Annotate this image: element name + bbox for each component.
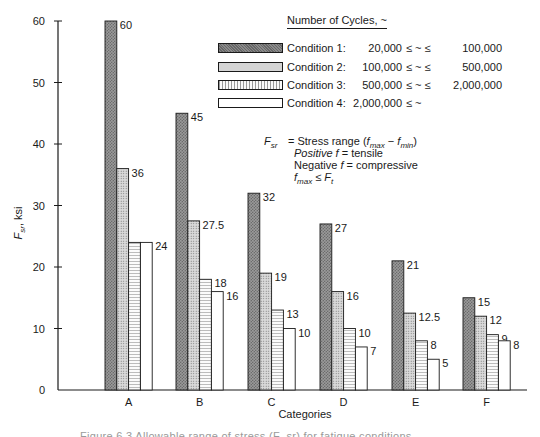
- bar-value-label: 45: [191, 111, 203, 123]
- y-tick-label: 0: [39, 384, 45, 396]
- bar-condition-1: [320, 224, 332, 390]
- bar-value-label: 27: [335, 222, 347, 234]
- bar-value-label: 16: [226, 290, 238, 302]
- bar-condition-4: [283, 329, 295, 391]
- bar-group-c: 32191310: [248, 191, 310, 390]
- bar-group-b: 4527.51816: [176, 111, 238, 390]
- bar-condition-3: [272, 310, 284, 390]
- bar-condition-4: [498, 341, 510, 390]
- bar-condition-4: [427, 359, 439, 390]
- y-tick-label: 10: [33, 323, 45, 335]
- y-axis-title: Fsr, ksi: [12, 207, 27, 240]
- bars: 6036244527.518163219131027161072112.5851…: [105, 19, 519, 390]
- bar-condition-4: [355, 347, 367, 390]
- legend-operator: ≤ ~ ≤: [406, 61, 431, 73]
- bar-value-label: 60: [120, 19, 132, 31]
- bar-group-a: 603624: [105, 19, 167, 390]
- legend-title: Number of Cycles, ~: [287, 14, 387, 29]
- legend-condition-label: Condition 4:: [287, 97, 346, 109]
- bar-value-label: 8: [513, 339, 519, 351]
- legend-low-value: 20,000: [342, 42, 402, 54]
- bar-condition-3: [344, 329, 356, 391]
- note-line-2: Positive f = tensile: [294, 147, 383, 159]
- category-labels: ABCDEF: [125, 396, 490, 408]
- condition-4-swatch: [218, 98, 283, 108]
- legend-high-value: 2,000,000: [438, 79, 502, 91]
- bar-condition-1: [248, 193, 260, 390]
- bar-value-label: 10: [358, 327, 370, 339]
- bar-condition-3: [487, 335, 499, 390]
- x-axis-title: Categories: [278, 408, 332, 420]
- bar-condition-1: [105, 21, 117, 390]
- bar-value-label: 16: [347, 290, 359, 302]
- bar-value-label: 36: [132, 167, 144, 179]
- bar-value-label: 12.5: [419, 311, 440, 323]
- legend-row-condition-1: Condition 1: 20,000 ≤ ~ ≤ 100,000: [218, 43, 540, 55]
- y-tick-label: 50: [33, 77, 45, 89]
- bar-value-label: 21: [407, 259, 419, 271]
- bar-value-label: 12: [490, 314, 502, 326]
- bar-condition-2: [404, 313, 416, 390]
- category-label-a: A: [125, 396, 133, 408]
- bar-value-label: 18: [214, 277, 226, 289]
- bar-condition-2: [260, 273, 272, 390]
- category-label-b: B: [196, 396, 203, 408]
- legend-low-value: 500,000: [342, 79, 402, 91]
- bar-condition-1: [392, 261, 404, 390]
- bar-condition-2: [117, 169, 129, 390]
- category-label-c: C: [268, 396, 276, 408]
- legend-row-condition-2: Condition 2: 100,000 ≤ ~ ≤ 500,000: [218, 62, 540, 74]
- legend-operator: ≤ ~ ≤: [406, 42, 431, 54]
- note-line-4: fmax ≤ Ft: [294, 171, 333, 188]
- bar-condition-3: [416, 341, 428, 390]
- condition-3-swatch: [218, 80, 283, 90]
- bar-value-label: 19: [275, 271, 287, 283]
- bar-value-label: 13: [286, 308, 298, 320]
- bar-value-label: 24: [155, 240, 167, 252]
- condition-1-swatch: [218, 43, 283, 53]
- legend-low-value: 2,000,000: [342, 97, 402, 109]
- legend-row-condition-4: Condition 4: 2,000,000 ≤ ~: [218, 98, 540, 110]
- condition-2-swatch: [218, 62, 283, 72]
- bar-condition-4: [140, 242, 152, 390]
- bar-condition-2: [332, 292, 344, 390]
- bar-value-label: 7: [370, 345, 376, 357]
- bar-condition-4: [211, 292, 223, 390]
- bar-condition-1: [176, 113, 188, 390]
- legend-condition-label: Condition 3:: [287, 79, 346, 91]
- bar-condition-3: [129, 242, 141, 390]
- y-tick-label: 60: [33, 15, 45, 27]
- legend-operator: ≤ ~ ≤: [406, 79, 431, 91]
- bar-condition-1: [463, 298, 475, 390]
- bar-value-label: 8: [430, 339, 436, 351]
- note-line-3: Negative f = compressive: [294, 159, 418, 171]
- legend-condition-label: Condition 1:: [287, 42, 346, 54]
- legend-operator: ≤ ~: [406, 97, 422, 109]
- bar-group-e: 2112.585: [392, 259, 448, 390]
- bar-condition-3: [200, 279, 212, 390]
- legend-condition-label: Condition 2:: [287, 61, 346, 73]
- bar-group-d: 2716107: [320, 222, 376, 390]
- category-label-d: D: [340, 396, 348, 408]
- bar-condition-2: [188, 221, 200, 390]
- bar-value-label: 15: [478, 296, 490, 308]
- bar-value-label: 27.5: [203, 219, 224, 231]
- y-tick-label: 20: [33, 261, 45, 273]
- y-tick-label: 40: [33, 138, 45, 150]
- legend-high-value: 500,000: [438, 61, 502, 73]
- category-label-f: F: [483, 396, 490, 408]
- bar-value-label: 32: [263, 191, 275, 203]
- bar-value-label: 10: [298, 327, 310, 339]
- legend-high-value: 100,000: [438, 42, 502, 54]
- note-symbol: Fsr: [264, 135, 277, 152]
- figure-caption: Figure 6.3 Allowable range of stress (F_…: [80, 430, 425, 437]
- legend-row-condition-3: Condition 3: 500,000 ≤ ~ ≤ 2,000,000: [218, 80, 540, 92]
- bar-condition-2: [475, 316, 487, 390]
- y-tick-label: 30: [33, 200, 45, 212]
- category-label-e: E: [412, 396, 419, 408]
- bar-group-f: 151298: [463, 296, 519, 390]
- legend-low-value: 100,000: [342, 61, 402, 73]
- bar-value-label: 5: [442, 357, 448, 369]
